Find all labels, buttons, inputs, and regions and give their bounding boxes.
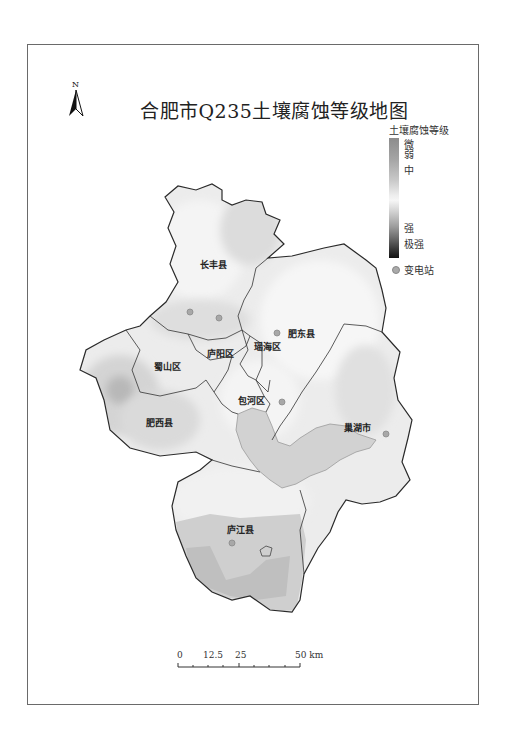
legend-title: 土壤腐蚀等级 [389, 122, 449, 137]
substation-marker[interactable] [274, 330, 280, 336]
legend-label-qiang: 强 [404, 224, 414, 234]
legend-substation-label: 变电站 [404, 262, 434, 277]
substation-marker[interactable] [383, 431, 389, 437]
legend-label-jiqiang: 极强 [404, 240, 424, 250]
region-label-feidong: 肥东县 [288, 328, 315, 339]
substation-marker[interactable] [279, 399, 285, 405]
region-label-baohe: 包河区 [237, 395, 265, 406]
legend-substation: 变电站 [392, 262, 434, 277]
region-label-shushan: 蜀山区 [154, 361, 181, 372]
legend-label-ruo: 弱 [404, 150, 414, 160]
substation-marker[interactable] [187, 309, 193, 315]
region-label-feixi: 肥西县 [146, 418, 173, 428]
substation-marker[interactable] [216, 315, 222, 321]
region-label-yaohai: 瑶海区 [254, 341, 281, 352]
legend-color-ramp [389, 138, 399, 258]
substation-marker[interactable] [229, 540, 235, 546]
scale-bar: 0 12.5 25 50 km [175, 650, 305, 674]
map-canvas: 长丰县 肥东县 瑶海区 庐阳区 蜀山区 包河区 肥西县 巢湖市 庐江县 [0, 0, 510, 744]
region-label-lujiang: 庐江县 [227, 524, 254, 535]
region-label-changfeng: 长丰县 [200, 259, 227, 270]
scale-ruler [175, 650, 315, 674]
region-label-chaohu: 巢湖市 [343, 422, 371, 433]
legend-label-zhong: 中 [404, 166, 414, 176]
circle-dot-icon [392, 266, 400, 274]
region-label-luyang: 庐阳区 [207, 348, 234, 359]
